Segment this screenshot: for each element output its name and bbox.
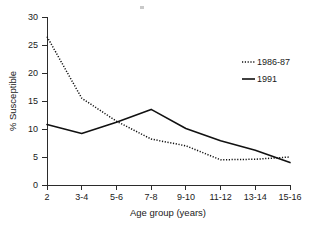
- x-tick-label: 15-16: [278, 192, 301, 202]
- scan-artifact: [140, 6, 144, 9]
- chart-legend: 1986-87 1991: [242, 57, 290, 84]
- x-axis-ticks: [47, 185, 290, 190]
- y-axis-tick-labels: 0 5 10 15 20 25 30: [28, 12, 38, 190]
- x-axis-title: Age group (years): [130, 207, 206, 218]
- y-tick-label: 5: [33, 152, 38, 162]
- y-tick-label: 20: [28, 68, 38, 78]
- y-tick-label: 0: [33, 180, 38, 190]
- series-line-1991: [47, 109, 290, 162]
- x-tick-label: 3-4: [75, 192, 88, 202]
- x-tick-label: 5-6: [110, 192, 123, 202]
- series-line-1986-87: [47, 37, 290, 160]
- x-tick-label: 9-10: [177, 192, 195, 202]
- x-tick-label: 2: [44, 192, 49, 202]
- y-tick-label: 25: [28, 40, 38, 50]
- y-tick-label: 30: [28, 12, 38, 22]
- x-tick-label: 7-8: [145, 192, 158, 202]
- y-tick-label: 10: [28, 124, 38, 134]
- legend-label-1986-87: 1986-87: [257, 57, 290, 67]
- y-axis-title: % Susceptible: [7, 71, 18, 131]
- x-tick-label: 13-14: [244, 192, 267, 202]
- y-axis-ticks: [42, 17, 47, 185]
- chart-figure: 0 5 10 15 20 25 30 2 3-4 5-6 7-8 9-10 11…: [0, 0, 312, 229]
- x-axis-tick-labels: 2 3-4 5-6 7-8 9-10 11-12 13-14 15-16: [44, 192, 301, 202]
- legend-label-1991: 1991: [257, 74, 277, 84]
- line-chart: 0 5 10 15 20 25 30 2 3-4 5-6 7-8 9-10 11…: [0, 0, 312, 229]
- y-tick-label: 15: [28, 96, 38, 106]
- x-tick-label: 11-12: [209, 192, 231, 202]
